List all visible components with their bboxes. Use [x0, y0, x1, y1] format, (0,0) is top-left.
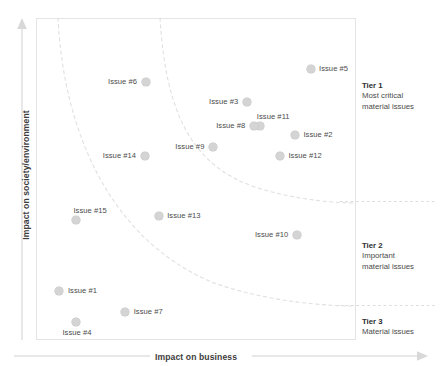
data-point-issue-14[interactable] — [141, 152, 149, 160]
tier-3-desc-line-1: Material issues — [362, 327, 443, 338]
data-point-issue-7[interactable] — [121, 308, 129, 316]
data-point-issue-13[interactable] — [155, 212, 163, 220]
data-point-issue-5[interactable] — [307, 65, 315, 73]
data-point-label-issue-2: Issue #2 — [303, 130, 332, 139]
data-point-label-issue-12: Issue #12 — [288, 151, 321, 160]
y-axis-title: Impact on society/environment — [21, 65, 31, 285]
data-point-label-issue-6: Issue #6 — [77, 77, 137, 86]
chart-vector-layer — [0, 0, 443, 366]
tier-3-title: Tier 3 — [362, 316, 443, 327]
data-point-label-issue-3: Issue #3 — [178, 97, 238, 106]
data-point-label-issue-9: Issue #9 — [144, 142, 204, 151]
x-axis-arrow-icon — [417, 351, 428, 361]
data-point-label-issue-1: Issue #1 — [68, 286, 97, 295]
data-point-label-issue-15: Issue #15 — [73, 206, 106, 215]
tier-1-desc-line-1: Most critical — [362, 91, 443, 102]
data-point-label-issue-7: Issue #7 — [134, 307, 163, 316]
data-point-label-issue-5: Issue #5 — [319, 64, 348, 73]
data-point-label-issue-10: Issue #10 — [228, 230, 288, 239]
data-point-label-issue-4: Issue #4 — [62, 328, 91, 337]
tier-annotation-tier-2: Tier 2 Important material issues — [362, 240, 443, 272]
data-point-issue-12[interactable] — [276, 152, 284, 160]
data-point-label-issue-13: Issue #13 — [167, 211, 200, 220]
data-point-label-issue-14: Issue #14 — [76, 151, 136, 160]
tier-2-title: Tier 2 — [362, 240, 443, 251]
tier-1-title: Tier 1 — [362, 80, 443, 91]
tier-2-desc-line-2: material issues — [362, 262, 443, 273]
tier-1-desc-line-2: material issues — [362, 102, 443, 113]
data-point-label-issue-8: Issue #8 — [185, 121, 245, 130]
data-point-issue-10[interactable] — [293, 231, 301, 239]
y-axis-arrow-icon — [17, 18, 27, 29]
tier-annotation-tier-3: Tier 3 Material issues — [362, 316, 443, 338]
data-point-issue-3[interactable] — [243, 98, 251, 106]
data-point-label-issue-11: Issue #11 — [257, 112, 290, 121]
data-point-issue-6[interactable] — [142, 78, 150, 86]
tier-1-boundary-curve — [160, 18, 356, 203]
materiality-matrix-chart: Impact on society/environment Impact on … — [0, 0, 443, 366]
tier-2-boundary-curve — [58, 18, 356, 306]
tier-2-desc-line-1: Important — [362, 251, 443, 262]
data-point-issue-9[interactable] — [209, 143, 217, 151]
tier-annotation-tier-1: Tier 1 Most critical material issues — [362, 80, 443, 112]
x-axis-title: Impact on business — [155, 352, 237, 362]
